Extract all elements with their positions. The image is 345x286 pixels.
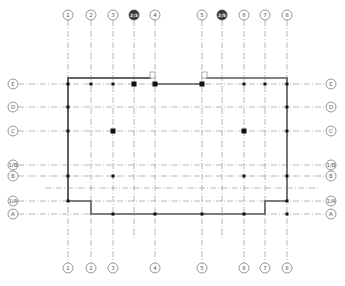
- column-small: [112, 83, 115, 86]
- axis-label: A: [329, 211, 333, 217]
- axis-bubble-right-A: A: [326, 209, 336, 219]
- column-small: [286, 83, 289, 86]
- axis-bubble-left-D: D: [8, 102, 18, 112]
- column-large: [111, 129, 116, 134]
- wall-offset-left: [150, 72, 155, 78]
- axis-bubble-bottom-2: 2: [86, 263, 96, 273]
- axis-label: E: [329, 81, 333, 87]
- axis-bubble-right-1-A: 1/A: [326, 196, 336, 206]
- column-small: [154, 213, 157, 216]
- axis-label: 5: [200, 12, 204, 18]
- axis-bubble-right-E: E: [326, 79, 336, 89]
- exterior-wall-path: [68, 78, 287, 214]
- axis-bubble-top-3: 3: [108, 10, 118, 20]
- column-small: [112, 175, 115, 178]
- column-small: [243, 175, 246, 178]
- column-small: [286, 213, 289, 216]
- axis-bubble-left-E: E: [8, 79, 18, 89]
- axis-bubble-top-7: 7: [260, 10, 270, 20]
- exterior-wall-outline: [68, 78, 151, 201]
- axis-label: B: [329, 173, 333, 179]
- axis-label: C: [329, 128, 333, 134]
- axis-label: D: [11, 104, 15, 110]
- axis-bubble-bottom-7: 7: [260, 263, 270, 273]
- axis-bubble-top-2-5: 2/5: [217, 10, 227, 20]
- axis-label: 1/A: [326, 198, 335, 204]
- axis-bubble-top-4: 4: [150, 10, 160, 20]
- axis-label: 1: [66, 265, 70, 271]
- column-small: [201, 213, 204, 216]
- axis-bubble-bottom-6: 6: [239, 263, 249, 273]
- column-large: [242, 129, 247, 134]
- axis-label: 2/5: [218, 13, 226, 18]
- structural-grid-plan: 1122332/344552/5667788EEDDCC1/B1/BBB1/A1…: [0, 0, 345, 286]
- column-small: [243, 83, 246, 86]
- axis-bubble-bottom-4: 4: [150, 263, 160, 273]
- axis-label: 2: [89, 12, 93, 18]
- axis-label: D: [329, 104, 333, 110]
- axis-label: 2/3: [130, 13, 138, 18]
- axis-label: 1/B: [8, 162, 17, 168]
- axis-bubble-bottom-8: 8: [282, 263, 292, 273]
- columns: [67, 82, 289, 216]
- axis-bubble-top-8: 8: [282, 10, 292, 20]
- axis-bubble-left-1-B: 1/B: [8, 160, 18, 170]
- axis-bubble-top-2: 2: [86, 10, 96, 20]
- axis-bubble-top-1: 1: [63, 10, 73, 20]
- column-small: [264, 83, 267, 86]
- column-small: [90, 83, 93, 86]
- axis-label: 6: [242, 12, 246, 18]
- column-small: [67, 106, 70, 109]
- axis-bubble-top-2-3: 2/3: [129, 10, 139, 20]
- column-small: [243, 213, 246, 216]
- axis-bubble-left-1-A: 1/A: [8, 196, 18, 206]
- axis-bubble-right-D: D: [326, 102, 336, 112]
- axis-bubble-bottom-1: 1: [63, 263, 73, 273]
- axis-label: 8: [285, 12, 289, 18]
- wall-offset-right: [202, 72, 207, 78]
- column-large: [200, 82, 205, 87]
- column-small: [286, 200, 289, 203]
- axis-label: 4: [153, 265, 157, 271]
- axis-bubble-left-B: B: [8, 171, 18, 181]
- axis-label: 6: [242, 265, 246, 271]
- axis-label: 7: [263, 265, 267, 271]
- column-small: [67, 83, 70, 86]
- axis-bubble-bottom-3: 3: [108, 263, 118, 273]
- axis-bubble-bottom-5: 5: [197, 263, 207, 273]
- column-small: [112, 213, 115, 216]
- grid-axes: [18, 20, 326, 263]
- axis-bubble-left-A: A: [8, 209, 18, 219]
- axis-label: C: [11, 128, 15, 134]
- axis-bubble-left-C: C: [8, 126, 18, 136]
- column-small: [67, 175, 70, 178]
- column-small: [286, 175, 289, 178]
- axis-bubble-top-6: 6: [239, 10, 249, 20]
- axis-label: 4: [153, 12, 157, 18]
- axis-label: 3: [111, 265, 115, 271]
- axis-label: 1: [66, 12, 70, 18]
- axis-label: 7: [263, 12, 267, 18]
- axis-label: 3: [111, 12, 115, 18]
- axis-bubble-right-C: C: [326, 126, 336, 136]
- column-small: [286, 106, 289, 109]
- column-large: [132, 82, 137, 87]
- column-small: [286, 130, 289, 133]
- axis-label: B: [11, 173, 15, 179]
- column-small: [67, 130, 70, 133]
- building-outline: [68, 72, 287, 214]
- axis-label: E: [11, 81, 15, 87]
- column-small: [67, 200, 70, 203]
- axis-label: 1/A: [8, 198, 17, 204]
- axis-label: 8: [285, 265, 289, 271]
- axis-bubble-top-5: 5: [197, 10, 207, 20]
- axis-bubble-right-1-B: 1/B: [326, 160, 336, 170]
- axis-label: A: [11, 211, 15, 217]
- axis-label: 5: [200, 265, 204, 271]
- axis-label: 1/B: [326, 162, 335, 168]
- column-large: [153, 82, 158, 87]
- axis-bubble-right-B: B: [326, 171, 336, 181]
- axis-label: 2: [89, 265, 93, 271]
